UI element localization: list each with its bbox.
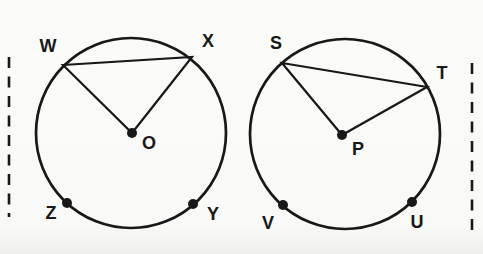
point-label-P: P [352,139,364,159]
point-P-dot [337,130,347,140]
point-U-dot [407,197,417,207]
point-V-dot [278,200,288,210]
circle-O-chord-and-radii [63,57,192,133]
point-label-S: S [270,33,282,53]
point-label-Y: Y [207,204,219,224]
point-Z-dot [62,198,72,208]
point-label-U: U [411,212,424,232]
scanned-figure-page: WXOZYSTPVU [0,0,483,254]
point-O-dot [127,128,137,138]
point-Y-dot [188,199,198,209]
point-label-O: O [142,133,156,153]
point-label-T: T [437,63,448,83]
point-label-V: V [262,213,274,233]
geometry-diagram: WXOZYSTPVU [0,0,483,254]
point-label-W: W [40,36,57,56]
circle-P-chord-and-radii [282,63,427,135]
point-label-X: X [202,31,214,51]
point-label-Z: Z [46,203,57,223]
